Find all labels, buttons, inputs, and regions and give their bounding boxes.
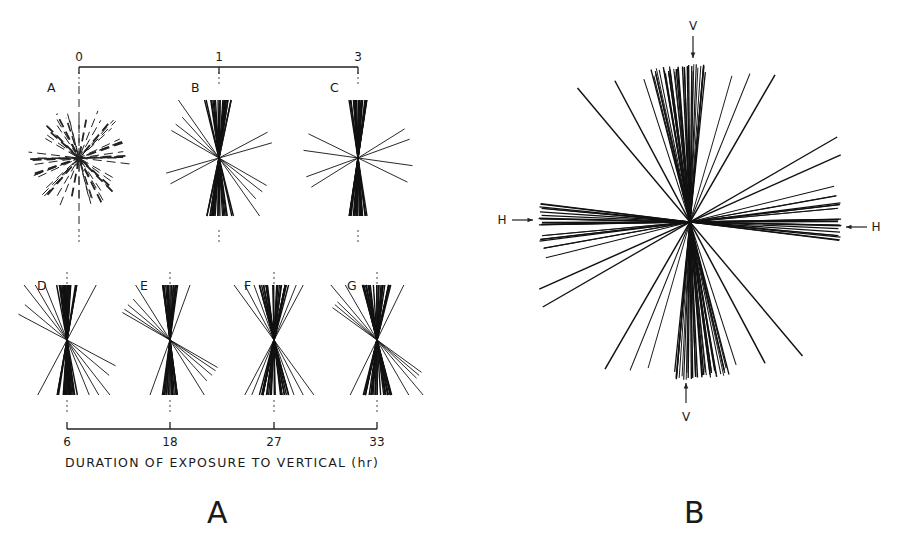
rosette-large [538, 64, 841, 380]
time-tick-label: 33 [369, 435, 384, 449]
time-tick-label: 18 [162, 435, 177, 449]
time-tick-label: 3 [354, 50, 362, 64]
panel-a: 013 6182733 ABCDEFG DURATION OF EXPOSURE… [18, 50, 423, 470]
panel-b: VVHH [497, 19, 880, 424]
rosette-label: E [140, 278, 148, 293]
arrow-up-icon [684, 383, 689, 403]
time-tick-label: 1 [215, 50, 223, 64]
rosette-b: B [166, 72, 272, 244]
rosette-g: G [331, 272, 423, 414]
arrow-down-icon [691, 36, 696, 58]
rosette-label: B [191, 80, 200, 95]
top-time-scale: 013 [75, 50, 362, 74]
bottom-time-scale: 6182733 [63, 422, 384, 449]
panel-caption-a: A [207, 495, 228, 530]
time-tick-label: 27 [266, 435, 281, 449]
arrow-left-icon [846, 225, 867, 230]
panel-caption-b: B [684, 495, 705, 530]
rosette-a: A [28, 72, 129, 244]
arrow-right-icon [512, 218, 533, 223]
time-tick-label: 0 [75, 50, 83, 64]
time-tick-label: 6 [63, 435, 71, 449]
label-h-left: H [497, 213, 506, 227]
rosette-e: E [122, 272, 217, 414]
figure-canvas: 013 6182733 ABCDEFG DURATION OF EXPOSURE… [0, 0, 910, 547]
rosette-label: C [330, 80, 339, 95]
label-v-bottom: V [682, 410, 691, 424]
rosette-group: ABCDEFG [18, 72, 423, 414]
rosette-f: F [234, 272, 314, 414]
rosette-c: C [304, 72, 413, 244]
label-v-top: V [689, 19, 698, 33]
label-h-right: H [871, 220, 880, 234]
rosette-label: A [47, 80, 56, 95]
x-axis-title: DURATION OF EXPOSURE TO VERTICAL (hr) [65, 455, 379, 470]
rosette-d: D [18, 272, 115, 414]
